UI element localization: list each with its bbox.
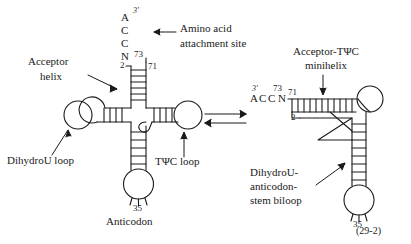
figure-canvas: 3' A C C N 73 71 2 Amino acid attachment… — [0, 0, 411, 244]
right-base-N: N — [278, 93, 286, 105]
tpsic-loop-pointer — [181, 132, 187, 157]
biloop-label-line1: DihydroU- — [250, 167, 298, 179]
amino-acid-pointer — [154, 29, 176, 35]
biloop-label-line2: anticodon- — [250, 181, 297, 193]
tpsic-loop-label: TΨC loop — [155, 156, 199, 168]
right-base-A: A — [250, 93, 258, 105]
left-dihydrou-loop — [64, 101, 92, 129]
right-anticodon-loop — [344, 185, 374, 222]
left-acceptor-helix — [126, 62, 146, 108]
left-residue-71: 71 — [148, 62, 157, 71]
figure-reference: (29-2) — [356, 226, 381, 237]
right-biloop-zigzag — [292, 112, 352, 140]
acceptor-helix-label-line1: Acceptor — [28, 56, 68, 68]
amino-acid-site-label-line2: attachment site — [180, 38, 246, 50]
left-residue-35: 35 — [133, 204, 142, 213]
anticodon-label: Anticodon — [106, 216, 152, 228]
left-base-C1: C — [121, 25, 128, 37]
left-tpsic-loop — [174, 101, 202, 129]
acceptor-helix-pointer — [88, 75, 117, 92]
left-dihydrou-arm — [79, 97, 131, 123]
right-residue-71: 71 — [288, 88, 297, 97]
right-base-C1: C — [259, 93, 266, 105]
biloop-pointer — [316, 163, 345, 185]
minihelix-pointer — [320, 75, 326, 95]
left-residue-2: 2 — [120, 61, 125, 70]
left-tpsic-arm — [146, 108, 178, 122]
left-three-prime-label: 3' — [133, 7, 139, 15]
left-anticodon-stem — [131, 122, 146, 170]
left-variable-loop — [139, 122, 152, 132]
left-anticodon-loop — [124, 169, 154, 206]
left-residue-73: 73 — [134, 50, 143, 59]
right-anticodon-stem — [352, 112, 366, 186]
right-minihelix — [288, 99, 358, 112]
right-residue-73: 73 — [273, 84, 282, 93]
amino-acid-site-label-line1: Amino acid — [180, 23, 232, 35]
equilibrium-arrow-group — [205, 111, 246, 127]
right-base-C2: C — [268, 93, 275, 105]
minihelix-label-line1: Acceptor-TΨC — [286, 46, 366, 58]
acceptor-helix-label-line2: helix — [40, 71, 62, 83]
left-base-C2: C — [121, 38, 128, 50]
right-residue-2: 2 — [291, 113, 296, 122]
dihydrou-loop-label: DihydroU loop — [7, 155, 74, 167]
dihydrou-loop-pointer — [52, 130, 71, 155]
left-base-A: A — [121, 12, 129, 24]
minihelix-label-line2: minihelix — [286, 60, 366, 72]
right-tpsic-loop — [357, 86, 383, 112]
biloop-label-line3: stem biloop — [250, 195, 302, 207]
